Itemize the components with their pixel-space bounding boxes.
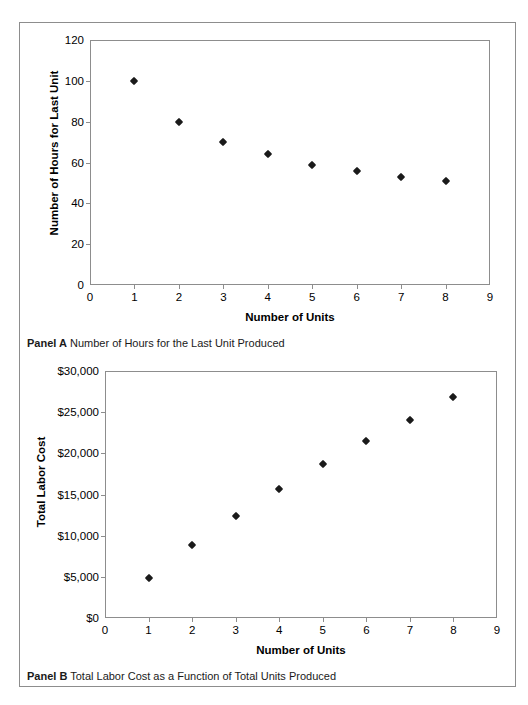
panel-a-x-tick-label: 3 <box>220 291 226 303</box>
panel-b-y-tick-mark <box>101 536 105 537</box>
panel-a-x-tick-mark <box>223 285 224 289</box>
panel-b-x-tick-mark <box>279 618 280 622</box>
panel-b-x-tick-mark <box>410 618 411 622</box>
panel-a-y-tick-mark <box>86 244 90 245</box>
panel-a-y-tick-label: 40 <box>71 197 84 209</box>
panel-b-y-tick-label: $0 <box>86 612 99 624</box>
panel-b-x-tick-label: 6 <box>363 624 369 636</box>
panel-b-plot-area <box>105 371 497 618</box>
panel-b-y-tick-label: $20,000 <box>57 447 99 459</box>
panel-b-y-tick-label: $30,000 <box>57 365 99 377</box>
panel-b-y-tick-mark <box>101 412 105 413</box>
panel-b-x-tick-mark <box>236 618 237 622</box>
panel-a-x-tick-label: 5 <box>309 291 315 303</box>
panel-a-x-tick-label: 6 <box>353 291 359 303</box>
panel-b-x-tick-label: 8 <box>450 624 456 636</box>
panel-a-x-tick-mark <box>357 285 358 289</box>
panel-b-y-axis-title: Total Labor Cost <box>35 382 47 582</box>
panel-a-x-tick-label: 8 <box>442 291 448 303</box>
panel-a-x-tick-label: 0 <box>87 291 93 303</box>
panel-b-x-tick-label: 9 <box>494 624 500 636</box>
panel-a-x-tick-label: 2 <box>176 291 182 303</box>
panel-b-x-tick-label: 2 <box>189 624 195 636</box>
panel-b-x-tick-label: 4 <box>276 624 282 636</box>
panel-b-caption-text: Total Labor Cost as a Function of Total … <box>70 670 336 682</box>
panel-b-caption-label: Panel B <box>27 670 67 682</box>
panel-a-y-axis-title: Number of Hours for Last Unit <box>48 53 60 253</box>
panel-a-caption: Panel A Number of Hours for the Last Uni… <box>27 337 285 349</box>
panel-a-plot-area <box>90 40 490 285</box>
panel-a-x-tick-mark <box>401 285 402 289</box>
panel-a-y-tick-label: 20 <box>71 238 84 250</box>
panel-a-x-tick-mark <box>268 285 269 289</box>
panel-b-x-tick-mark <box>453 618 454 622</box>
panel-a-y-tick-label: 120 <box>65 34 84 46</box>
panel-a-x-tick-mark <box>134 285 135 289</box>
panel-b-x-tick-mark <box>149 618 150 622</box>
panel-a-x-tick-label: 1 <box>131 291 137 303</box>
panel-a-x-tick-label: 9 <box>487 291 493 303</box>
panel-b-x-tick-mark <box>192 618 193 622</box>
panel-b-y-tick-mark <box>101 577 105 578</box>
panel-a-x-tick-mark <box>446 285 447 289</box>
panel-a-y-tick-label: 80 <box>71 116 84 128</box>
panel-b-x-tick-label: 5 <box>320 624 326 636</box>
panel-b-y-tick-mark <box>101 495 105 496</box>
panel-b-y-tick-label: $10,000 <box>57 530 99 542</box>
panel-a-caption-label: Panel A <box>27 337 67 349</box>
panel-a-x-tick-label: 7 <box>398 291 404 303</box>
panel-b-y-tick-label: $15,000 <box>57 489 99 501</box>
panel-a-plot: Number of Hours for Last Unit 0204060801… <box>20 23 517 343</box>
panel-a-x-tick-mark <box>179 285 180 289</box>
panel-a-y-tick-mark <box>86 122 90 123</box>
panel-b-x-tick-label: 1 <box>145 624 151 636</box>
panel-a-y-tick-label: 100 <box>65 75 84 87</box>
panel-a-y-tick-mark <box>86 203 90 204</box>
panel-a-y-tick-mark <box>86 163 90 164</box>
panel-b-x-tick-label: 0 <box>102 624 108 636</box>
panel-a-y-tick-label: 0 <box>78 279 84 291</box>
panel-b-x-tick-mark <box>366 618 367 622</box>
panel-b-y-tick-label: $25,000 <box>57 406 99 418</box>
panel-a-caption-text: Number of Hours for the Last Unit Produc… <box>70 337 285 349</box>
panel-b-y-tick-label: $5,000 <box>64 571 99 583</box>
panel-b-y-tick-mark <box>101 453 105 454</box>
panel-b-plot: Total Labor Cost $0$5,000$10,000$15,000$… <box>20 361 517 661</box>
panel-b-x-tick-label: 3 <box>232 624 238 636</box>
panel-a-x-tick-label: 4 <box>265 291 271 303</box>
panel-b-caption: Panel B Total Labor Cost as a Function o… <box>27 670 336 682</box>
panel-a-x-axis-title: Number of Units <box>245 311 334 323</box>
panel-b-x-tick-label: 7 <box>407 624 413 636</box>
panel-b-x-axis-title: Number of Units <box>256 644 345 656</box>
panel-a-y-tick-mark <box>86 81 90 82</box>
figure-frame: Number of Hours for Last Unit 0204060801… <box>19 22 516 687</box>
panel-a-y-tick-label: 60 <box>71 157 84 169</box>
panel-b-x-tick-mark <box>323 618 324 622</box>
panel-a-x-tick-mark <box>312 285 313 289</box>
